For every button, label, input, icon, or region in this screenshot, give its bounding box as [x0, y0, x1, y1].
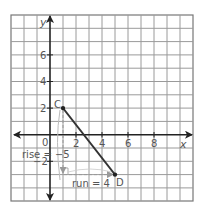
rise-curve: [58, 110, 61, 180]
x-tick-6: 6: [125, 138, 131, 149]
x-tick-8: 8: [151, 138, 157, 149]
run-curve: [68, 169, 112, 172]
coordinate-plane: y x 0 2 4 6 8 6 4 2 −2 C D rise = −5 run…: [0, 0, 200, 214]
x-tick-2: 2: [73, 138, 79, 149]
y-tick-6: 6: [40, 50, 46, 61]
right-angle-marker: [63, 168, 68, 175]
y-axis-label: y: [39, 16, 47, 29]
x-axis-label: x: [179, 138, 187, 151]
point-d-label: D: [116, 177, 124, 188]
grid: [11, 15, 193, 201]
point-c-label: C: [54, 99, 61, 110]
x-tick-4: 4: [99, 138, 105, 149]
origin-label: 0: [42, 137, 48, 148]
point-c: [61, 106, 65, 110]
run-label: run = 4: [72, 178, 110, 189]
y-tick-2: 2: [40, 103, 46, 114]
rise-label: rise = −5: [22, 149, 70, 160]
y-tick-4: 4: [40, 76, 46, 87]
